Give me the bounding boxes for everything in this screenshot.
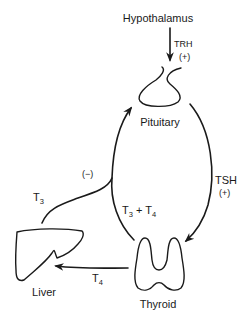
svg-text:T3 + T4: T3 + T4 [122, 204, 156, 219]
liver-t3-branch [42, 178, 112, 223]
trh-effect-label: (+) [179, 52, 190, 62]
svg-text:T4: T4 [92, 272, 103, 287]
pituitary-label: Pituitary [140, 116, 180, 128]
svg-text:T3: T3 [33, 191, 44, 206]
liver-t3-label: T3 [33, 191, 44, 206]
tsh-arrow [186, 104, 212, 241]
tsh-label: TSH [215, 174, 237, 186]
t4-arrow [56, 266, 128, 268]
hypothalamus-label: Hypothalamus [123, 12, 194, 24]
thyroid-label: Thyroid [140, 298, 177, 310]
trh-label: TRH [174, 39, 193, 49]
feedback-effect-label: (−) [82, 169, 93, 179]
tsh-effect-label: (+) [219, 188, 230, 198]
t3-t4-label: T3 + T4 [122, 204, 156, 219]
feedback-arrow [112, 108, 134, 240]
t4-label: T4 [92, 272, 103, 287]
liver-icon [16, 229, 84, 281]
thyroid-axis-diagram: Hypothalamus TRH (+) Pituitary TSH (+) (… [0, 0, 247, 321]
pituitary-icon [139, 67, 181, 106]
liver-label: Liver [32, 286, 56, 298]
thyroid-icon [135, 238, 184, 290]
